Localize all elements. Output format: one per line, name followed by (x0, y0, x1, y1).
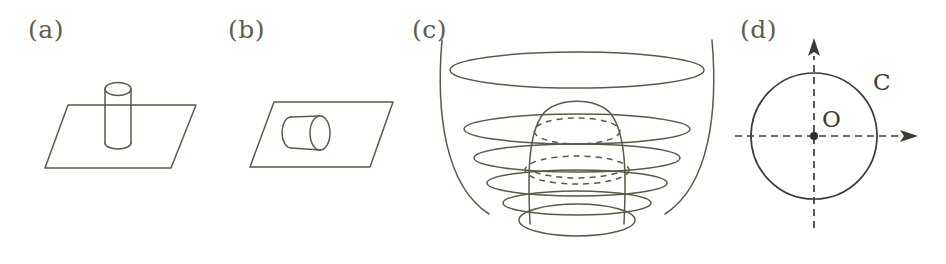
bell-silhouette-c (529, 101, 625, 224)
cylinder-bottom-arc-a (105, 143, 131, 149)
bowl-bottom-ellipse-c (519, 204, 635, 236)
panel-label-a: (a) (28, 15, 64, 44)
y-axis-arrowhead-icon (808, 38, 820, 56)
panel-a (45, 83, 196, 169)
bowl-level-ring-4-c (503, 191, 651, 215)
figure-container: (a) (b) (c) (d) O C (0, 0, 946, 264)
panel-c (440, 40, 713, 236)
figure-svg: (a) (b) (c) (d) O C (0, 0, 946, 264)
panel-d (735, 38, 918, 228)
curve-label-d: C (873, 69, 891, 95)
panel-label-b: (b) (228, 15, 265, 44)
bowl-level-ring-3-c (487, 170, 667, 196)
plane-parallelogram-a (45, 105, 196, 168)
panel-label-d: (d) (740, 15, 777, 44)
bowl-level-ring-2-c (474, 144, 680, 172)
cylinder-top-ellipse-a (105, 83, 131, 96)
bowl-level-ring-1-c (464, 114, 690, 144)
x-axis-arrowhead-icon (900, 130, 918, 142)
bell-dashed-base-arc-c (535, 172, 620, 178)
panel-b (250, 102, 393, 167)
bell-dashed-ellipse-upper-c (534, 118, 620, 144)
panel-label-c: (c) (412, 15, 447, 44)
cylinder-right-cap-b (310, 116, 330, 150)
cylinder-left-cap-b (282, 117, 291, 148)
plane-parallelogram-b (250, 102, 393, 167)
bowl-rim-ellipse-c (450, 52, 704, 88)
origin-label-d: O (822, 106, 841, 132)
origin-dot-d (810, 132, 818, 140)
